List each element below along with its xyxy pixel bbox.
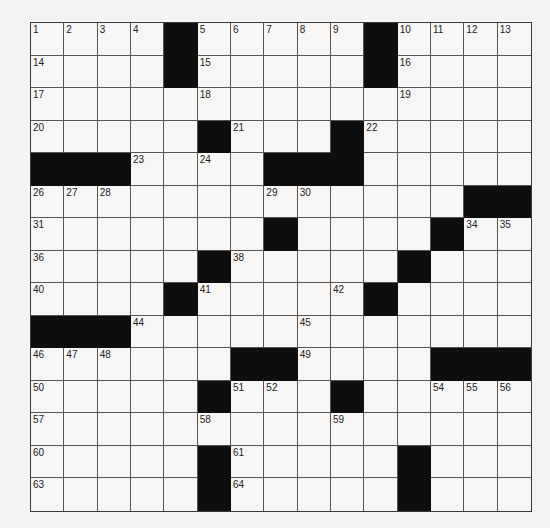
crossword-cell[interactable]: 61 xyxy=(231,446,264,479)
crossword-cell[interactable] xyxy=(264,251,297,284)
crossword-cell[interactable] xyxy=(264,413,297,446)
crossword-cell[interactable] xyxy=(131,413,164,446)
crossword-cell[interactable] xyxy=(131,348,164,381)
crossword-cell[interactable]: 41 xyxy=(198,283,231,316)
crossword-cell[interactable]: 38 xyxy=(231,251,264,284)
crossword-cell[interactable]: 46 xyxy=(31,348,64,381)
crossword-cell[interactable] xyxy=(331,251,364,284)
crossword-cell[interactable] xyxy=(198,348,231,381)
crossword-cell[interactable]: 15 xyxy=(198,56,231,89)
crossword-cell[interactable] xyxy=(464,88,497,121)
crossword-cell[interactable] xyxy=(364,88,397,121)
crossword-cell[interactable] xyxy=(364,446,397,479)
crossword-cell[interactable] xyxy=(198,186,231,219)
crossword-cell[interactable] xyxy=(98,218,131,251)
crossword-cell[interactable]: 14 xyxy=(31,56,64,89)
crossword-cell[interactable] xyxy=(464,413,497,446)
crossword-cell[interactable] xyxy=(164,121,197,154)
crossword-cell[interactable]: 9 xyxy=(331,23,364,56)
crossword-cell[interactable] xyxy=(64,121,97,154)
crossword-cell[interactable] xyxy=(298,478,331,511)
crossword-cell[interactable] xyxy=(131,121,164,154)
crossword-cell[interactable]: 13 xyxy=(498,23,531,56)
crossword-cell[interactable]: 51 xyxy=(231,381,264,414)
crossword-cell[interactable] xyxy=(331,218,364,251)
crossword-cell[interactable] xyxy=(498,283,531,316)
crossword-cell[interactable]: 21 xyxy=(231,121,264,154)
crossword-cell[interactable]: 2 xyxy=(64,23,97,56)
crossword-cell[interactable] xyxy=(364,381,397,414)
crossword-cell[interactable] xyxy=(164,88,197,121)
crossword-cell[interactable] xyxy=(364,218,397,251)
crossword-cell[interactable] xyxy=(398,283,431,316)
crossword-cell[interactable] xyxy=(331,478,364,511)
crossword-cell[interactable] xyxy=(164,381,197,414)
crossword-cell[interactable]: 45 xyxy=(298,316,331,349)
crossword-cell[interactable]: 29 xyxy=(264,186,297,219)
crossword-cell[interactable] xyxy=(231,316,264,349)
crossword-cell[interactable] xyxy=(331,186,364,219)
crossword-cell[interactable] xyxy=(498,56,531,89)
crossword-cell[interactable] xyxy=(98,121,131,154)
crossword-cell[interactable]: 63 xyxy=(31,478,64,511)
crossword-cell[interactable] xyxy=(131,283,164,316)
crossword-cell[interactable]: 64 xyxy=(231,478,264,511)
crossword-cell[interactable]: 48 xyxy=(98,348,131,381)
crossword-cell[interactable] xyxy=(64,218,97,251)
crossword-cell[interactable]: 11 xyxy=(431,23,464,56)
crossword-cell[interactable]: 3 xyxy=(98,23,131,56)
crossword-cell[interactable]: 36 xyxy=(31,251,64,284)
crossword-cell[interactable] xyxy=(164,348,197,381)
crossword-cell[interactable] xyxy=(131,186,164,219)
crossword-cell[interactable]: 7 xyxy=(264,23,297,56)
crossword-cell[interactable]: 40 xyxy=(31,283,64,316)
crossword-cell[interactable] xyxy=(431,316,464,349)
crossword-cell[interactable]: 44 xyxy=(131,316,164,349)
crossword-cell[interactable] xyxy=(298,251,331,284)
crossword-cell[interactable] xyxy=(64,446,97,479)
crossword-cell[interactable] xyxy=(364,251,397,284)
crossword-cell[interactable] xyxy=(431,446,464,479)
crossword-cell[interactable] xyxy=(398,218,431,251)
crossword-cell[interactable] xyxy=(398,186,431,219)
crossword-cell[interactable] xyxy=(298,283,331,316)
crossword-cell[interactable] xyxy=(464,251,497,284)
crossword-cell[interactable] xyxy=(64,56,97,89)
crossword-cell[interactable] xyxy=(164,153,197,186)
crossword-cell[interactable]: 34 xyxy=(464,218,497,251)
crossword-cell[interactable] xyxy=(331,446,364,479)
crossword-cell[interactable]: 35 xyxy=(498,218,531,251)
crossword-cell[interactable] xyxy=(98,56,131,89)
crossword-cell[interactable] xyxy=(98,381,131,414)
crossword-cell[interactable] xyxy=(131,88,164,121)
crossword-cell[interactable] xyxy=(264,56,297,89)
crossword-cell[interactable] xyxy=(231,413,264,446)
crossword-cell[interactable] xyxy=(164,446,197,479)
crossword-cell[interactable] xyxy=(498,153,531,186)
crossword-cell[interactable] xyxy=(364,348,397,381)
crossword-cell[interactable] xyxy=(398,316,431,349)
crossword-cell[interactable]: 55 xyxy=(464,381,497,414)
crossword-cell[interactable] xyxy=(198,316,231,349)
crossword-cell[interactable] xyxy=(398,381,431,414)
crossword-cell[interactable]: 47 xyxy=(64,348,97,381)
crossword-cell[interactable] xyxy=(98,251,131,284)
crossword-cell[interactable] xyxy=(431,478,464,511)
crossword-cell[interactable] xyxy=(231,88,264,121)
crossword-cell[interactable] xyxy=(398,348,431,381)
crossword-cell[interactable]: 6 xyxy=(231,23,264,56)
crossword-cell[interactable] xyxy=(498,413,531,446)
crossword-cell[interactable]: 22 xyxy=(364,121,397,154)
crossword-cell[interactable]: 42 xyxy=(331,283,364,316)
crossword-cell[interactable] xyxy=(331,316,364,349)
crossword-cell[interactable]: 8 xyxy=(298,23,331,56)
crossword-cell[interactable] xyxy=(464,121,497,154)
crossword-cell[interactable] xyxy=(364,153,397,186)
crossword-cell[interactable] xyxy=(431,88,464,121)
crossword-cell[interactable] xyxy=(231,186,264,219)
crossword-cell[interactable]: 58 xyxy=(198,413,231,446)
crossword-cell[interactable] xyxy=(431,283,464,316)
crossword-cell[interactable]: 23 xyxy=(131,153,164,186)
crossword-cell[interactable] xyxy=(131,381,164,414)
crossword-cell[interactable] xyxy=(464,316,497,349)
